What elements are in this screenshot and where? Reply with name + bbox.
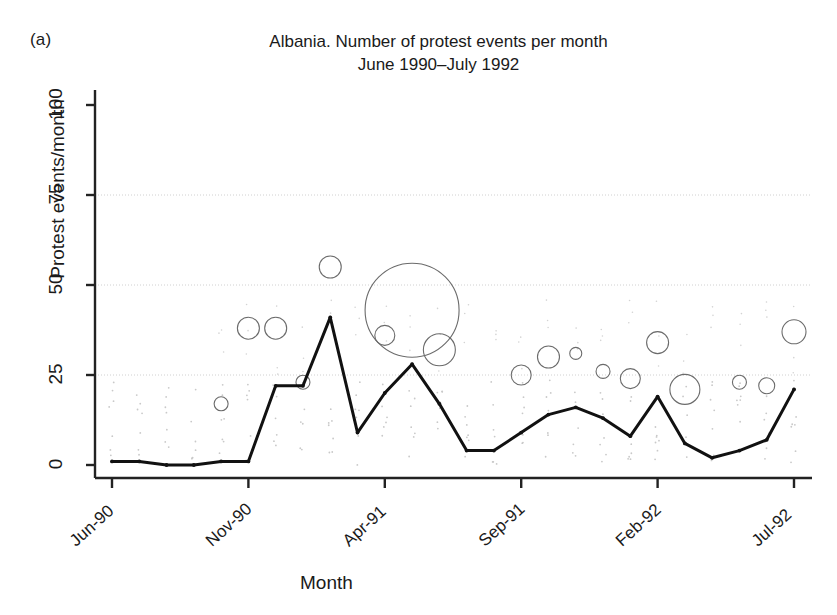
data-point-marker — [519, 431, 523, 435]
bubble-marker — [620, 369, 640, 389]
data-point-marker — [465, 449, 469, 453]
data-point-marker — [492, 449, 496, 453]
bubble-marker — [365, 263, 459, 357]
bubble-marker — [537, 346, 559, 368]
data-point-marker — [601, 416, 605, 420]
data-point-marker — [165, 463, 169, 467]
data-point-marker — [683, 442, 687, 446]
data-point-marker — [437, 402, 441, 406]
bubble-marker — [214, 397, 228, 411]
data-point-marker — [110, 460, 114, 464]
data-point-marker — [137, 460, 141, 464]
bubble-marker — [596, 364, 610, 378]
series-line — [112, 317, 794, 465]
bubble-marker — [265, 317, 287, 339]
bubble-marker — [423, 334, 455, 366]
plot-area — [0, 0, 837, 615]
y-tick-label: 0 — [45, 438, 67, 490]
data-point-marker — [792, 388, 796, 392]
data-point-marker — [547, 413, 551, 417]
data-point-marker — [410, 362, 414, 366]
bubble-marker — [570, 347, 582, 359]
data-point-marker — [247, 460, 251, 464]
data-point-marker — [301, 384, 305, 388]
data-point-marker — [356, 431, 360, 435]
bubble-marker — [647, 332, 669, 354]
data-point-marker — [192, 463, 196, 467]
y-tick-label: 50 — [45, 258, 67, 310]
bubble-marker — [732, 375, 746, 389]
data-point-marker — [219, 460, 223, 464]
bubble-marker — [759, 378, 775, 394]
bubble-marker — [670, 374, 700, 404]
data-point-marker — [574, 406, 578, 410]
background-dot-cloud — [108, 299, 797, 466]
series-markers — [110, 316, 796, 467]
y-tick-label: 75 — [45, 168, 67, 220]
bubble-marker — [237, 317, 259, 339]
data-point-marker — [765, 438, 769, 442]
y-tick-label: 100 — [45, 78, 67, 130]
data-point-marker — [710, 456, 714, 460]
data-point-marker — [383, 391, 387, 395]
y-tick-label: 25 — [45, 348, 67, 400]
data-point-marker — [656, 395, 660, 399]
bubble-marker — [782, 320, 806, 344]
data-point-marker — [274, 384, 278, 388]
data-point-marker — [738, 449, 742, 453]
chart-figure: (a) Albania. Number of protest events pe… — [0, 0, 837, 615]
bubble-marker — [319, 256, 341, 278]
data-point-marker — [628, 434, 632, 438]
data-point-marker — [328, 316, 332, 320]
